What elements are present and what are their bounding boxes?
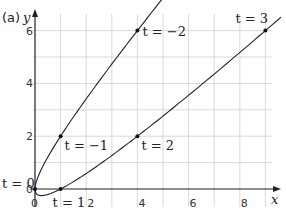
x-tick-label: 6 [190, 197, 197, 210]
y-axis-label: y [22, 10, 31, 25]
grid [33, 14, 272, 207]
part-label: (a) [2, 10, 20, 25]
point-marker [59, 134, 63, 138]
axes [30, 9, 281, 207]
x-axis-label: x [271, 192, 279, 207]
point-marker [263, 29, 267, 33]
point-label: t = −2 [142, 24, 186, 39]
x-tick-label: 4 [138, 197, 145, 210]
x-tick-label: 2 [87, 197, 94, 210]
point-label: t = −1 [65, 138, 109, 153]
points: t = −2t = −1t = 0t = 1t = 2t = 3 [2, 11, 268, 210]
x-tick-label: 0 [31, 197, 38, 210]
point-label: t = 1 [53, 195, 86, 210]
point-label: t = 2 [141, 138, 174, 153]
point-marker [135, 29, 139, 33]
point-label: t = 0 [2, 176, 35, 191]
y-tick-label: 6 [26, 25, 33, 38]
parametric-plot: 024680246 t = −2t = −1t = 0t = 1t = 2t =… [0, 0, 286, 210]
y-tick-label: 4 [26, 77, 33, 90]
point-marker [59, 187, 63, 191]
point-marker [135, 134, 139, 138]
y-tick-label: 2 [26, 130, 33, 143]
point-label: t = 3 [235, 11, 268, 26]
y-axis-arrow-icon [32, 9, 38, 17]
x-tick-label: 8 [241, 197, 248, 210]
